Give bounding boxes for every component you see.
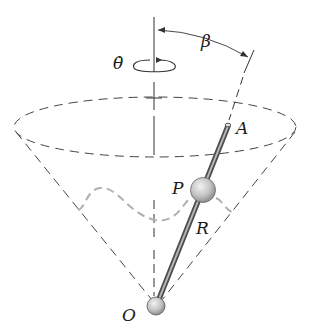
pivot-O	[147, 297, 165, 315]
cone-rod-diagram: θ̇ β A P R O	[0, 0, 311, 334]
label-R: R	[196, 220, 209, 237]
diagram-graphics	[0, 0, 311, 334]
label-P: P	[172, 180, 183, 197]
label-A: A	[236, 120, 248, 137]
label-theta-dot: θ̇	[113, 55, 123, 72]
label-O: O	[122, 307, 136, 324]
cone-rim-ellipse	[14, 97, 296, 157]
rod-extension-line	[229, 77, 243, 120]
label-beta: β	[201, 33, 211, 50]
rod-OA	[157, 123, 231, 304]
particle-P	[191, 178, 216, 203]
cone-sides	[16, 132, 295, 300]
